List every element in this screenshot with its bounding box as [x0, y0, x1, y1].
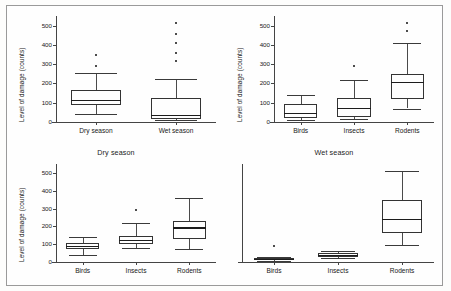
boxplot-figure: Level of damage (counts)0100200300400500… — [0, 0, 451, 291]
whisker-cap-upper — [155, 79, 197, 80]
whisker-upper — [407, 43, 408, 75]
panel-top-left: Level of damage (counts)0100200300400500… — [10, 8, 222, 144]
whisker-cap-upper — [393, 43, 421, 44]
x-tick-mark — [176, 122, 177, 125]
whisker-cap-lower — [385, 245, 418, 246]
box-iqr — [391, 74, 424, 99]
outlier-point — [406, 30, 408, 32]
x-tick-label-rodents: Rodents — [163, 267, 216, 274]
median-line — [151, 115, 201, 116]
panel-bottom-right: Wet seasonBirdsInsectsRodents — [228, 148, 440, 284]
whisker-cap-upper — [385, 171, 418, 172]
x-tick-mark — [407, 122, 408, 125]
whisker-upper — [402, 171, 403, 200]
whisker-upper — [176, 79, 177, 98]
median-line — [382, 219, 422, 220]
whisker-lower — [189, 239, 190, 248]
whisker-cap-upper — [175, 198, 203, 199]
x-tick-label-rodents: Rodents — [381, 127, 434, 134]
box-iqr — [173, 221, 206, 240]
boxplot-rodents — [228, 148, 440, 284]
whisker-cap-lower — [175, 249, 203, 250]
whisker-cap-lower — [393, 109, 421, 110]
x-tick-mark — [402, 262, 403, 265]
box-iqr — [382, 200, 422, 233]
whisker-lower — [402, 233, 403, 245]
median-line — [391, 82, 424, 83]
outlier-point — [175, 33, 177, 35]
whisker-upper — [189, 198, 190, 220]
boxplot-wet-season — [10, 8, 222, 144]
x-tick-mark — [189, 262, 190, 265]
panel-top-right: Level of damage (counts)0100200300400500… — [228, 8, 440, 144]
x-tick-label-wet-season: Wet season — [136, 127, 216, 134]
outlier-point — [175, 60, 177, 62]
panel-bottom-left: Dry seasonLevel of damage (counts)010020… — [10, 148, 222, 284]
outlier-point — [175, 22, 177, 24]
median-line — [173, 227, 206, 228]
outlier-point — [175, 52, 177, 54]
x-tick-label-rodents: Rodents — [370, 267, 434, 274]
outlier-point — [175, 42, 177, 44]
whisker-lower — [407, 99, 408, 109]
outlier-point — [406, 22, 408, 24]
